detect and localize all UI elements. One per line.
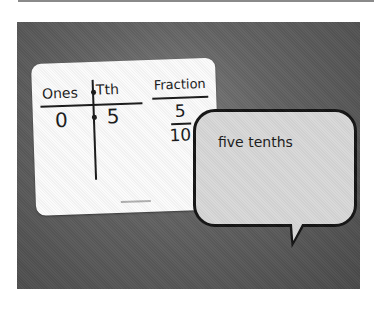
header-tenths: Tth — [96, 81, 119, 98]
top-divider-line — [18, 0, 374, 2]
decimal-divider-line — [92, 80, 97, 180]
value-tenths: 5 — [106, 104, 120, 128]
card-footer-text — [121, 200, 151, 203]
header-underline-fraction — [152, 96, 208, 100]
value-ones: 0 — [55, 108, 69, 132]
fraction-bar — [171, 122, 191, 125]
fraction-denominator: 10 — [169, 124, 191, 145]
speech-bubble-tail — [285, 222, 307, 248]
decimal-point-marker — [90, 90, 95, 95]
place-value-card: Ones Tth Fraction 0 5 5 10 — [31, 58, 220, 216]
decimal-point — [91, 115, 96, 120]
photo: Ones Tth Fraction 0 5 5 10 five tenths — [17, 22, 360, 289]
header-ones: Ones — [42, 84, 78, 101]
header-fraction: Fraction — [154, 76, 206, 93]
header-underline-place-value — [40, 102, 142, 108]
fraction-numerator: 5 — [174, 101, 186, 121]
speech-bubble-text: five tenths — [218, 134, 293, 150]
speech-bubble-tail-fill — [288, 221, 304, 241]
speech-bubble: five tenths — [193, 109, 357, 227]
